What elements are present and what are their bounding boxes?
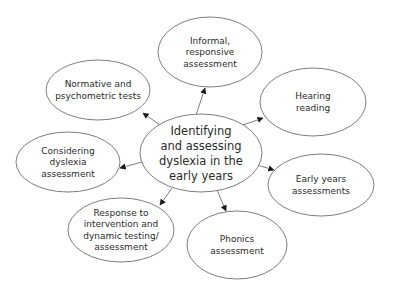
node-hearing: Hearingreading xyxy=(260,68,366,136)
node-label-line: responsive xyxy=(186,47,235,57)
node-label-line: dyslexia xyxy=(50,157,87,167)
node-label-line: Response to xyxy=(93,208,149,218)
node-label-line: psychometric tests xyxy=(55,91,141,101)
node-phonics: Phonicsassessment xyxy=(187,211,287,279)
node-label-line: Normative and xyxy=(65,79,132,89)
central-node: Identifyingand assessingdyslexia in thee… xyxy=(140,114,262,192)
arrow-connector xyxy=(196,88,205,115)
node-label-line: assessments xyxy=(292,186,350,196)
node-label-line: dyslexia in the xyxy=(159,154,243,168)
mind-map-diagram: Informal,responsiveassessmentNormative a… xyxy=(0,0,393,294)
nodes-layer: Informal,responsiveassessmentNormative a… xyxy=(16,17,374,279)
node-label-line: reading xyxy=(296,103,330,113)
node-label-line: Phonics xyxy=(220,234,255,244)
node-label-line: Informal, xyxy=(190,36,230,46)
node-label-line: assessment xyxy=(94,242,148,252)
arrow-connector xyxy=(143,113,160,125)
node-label-line: early years xyxy=(169,169,233,183)
node-label-line: intervention and xyxy=(84,219,159,229)
node-label-line: assessment xyxy=(183,59,237,69)
node-response: Response tointervention anddynamic testi… xyxy=(68,198,174,262)
node-label-line: Considering xyxy=(41,146,95,156)
node-label-line: Hearing xyxy=(295,91,330,101)
arrow-connector xyxy=(243,118,263,125)
arrow-connector xyxy=(120,162,142,168)
node-informal: Informal,responsiveassessment xyxy=(158,17,262,87)
node-label-line: assessment xyxy=(41,169,95,179)
node-label-line: and assessing xyxy=(160,139,241,153)
node-early-years: Early yearsassessments xyxy=(268,154,374,216)
arrow-connector xyxy=(217,190,226,211)
arrow-connector xyxy=(257,165,274,170)
node-label-line: Early years xyxy=(296,174,347,184)
node-label-line: assessment xyxy=(210,246,264,256)
node-considering: Consideringdyslexiaassessment xyxy=(16,132,120,192)
arrow-connector xyxy=(160,188,172,205)
node-label-line: Identifying xyxy=(170,124,231,138)
node-label-line: dynamic testing/ xyxy=(83,231,160,241)
node-normative: Normative andpsychometric tests xyxy=(46,60,150,120)
